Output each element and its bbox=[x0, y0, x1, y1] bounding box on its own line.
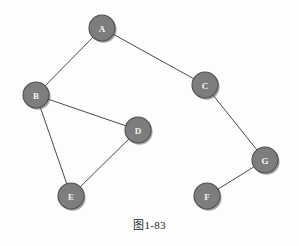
graph-edge-A-B bbox=[44, 36, 95, 87]
graph-edge-D-E bbox=[79, 138, 130, 189]
node-label-F: F bbox=[204, 192, 210, 202]
graph-edge-B-E bbox=[40, 105, 68, 185]
figure-container: ABCDEFG 图1-83 bbox=[0, 0, 299, 246]
node-label-E: E bbox=[68, 192, 74, 202]
graph-edge-G-F bbox=[216, 166, 255, 190]
graph-node-B[interactable]: B bbox=[23, 82, 51, 110]
graph-node-C[interactable]: C bbox=[192, 72, 220, 100]
figure-caption: 图1-83 bbox=[0, 216, 299, 232]
node-label-G: G bbox=[261, 156, 268, 166]
graph-node-F[interactable]: F bbox=[194, 183, 222, 211]
graph-node-A[interactable]: A bbox=[89, 15, 117, 43]
node-label-C: C bbox=[202, 81, 209, 91]
graph-edge-B-D bbox=[46, 99, 127, 127]
node-label-D: D bbox=[135, 126, 142, 136]
graph-canvas: ABCDEFG bbox=[0, 0, 299, 246]
node-label-A: A bbox=[99, 24, 106, 34]
graph-node-G[interactable]: G bbox=[252, 147, 280, 175]
node-layer: ABCDEFG bbox=[23, 15, 280, 211]
graph-node-E[interactable]: E bbox=[58, 183, 86, 211]
node-label-B: B bbox=[33, 91, 39, 101]
edge-layer bbox=[40, 33, 259, 190]
graph-edge-A-C bbox=[112, 33, 196, 79]
graph-edge-C-G bbox=[212, 94, 258, 152]
graph-node-D[interactable]: D bbox=[125, 117, 153, 145]
